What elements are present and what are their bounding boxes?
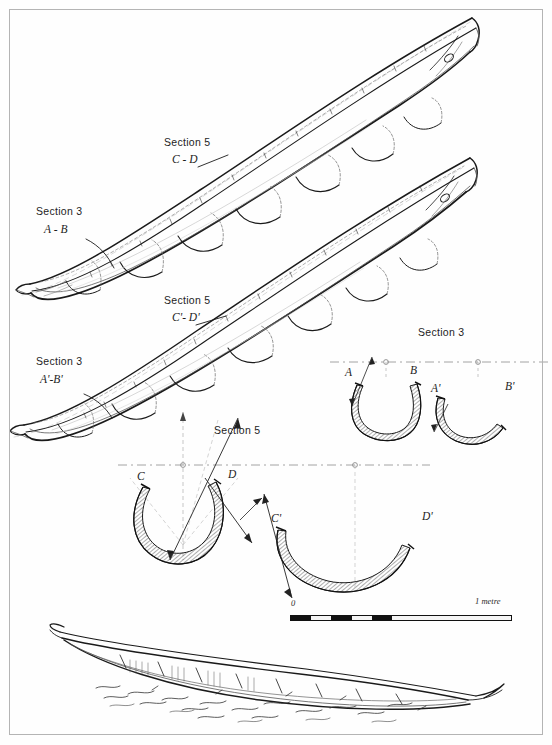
lower-canoe-drawing [10,158,477,440]
lower-canoe-section5-label: Section 5 [164,294,210,306]
bottom-canoe-profile [50,624,504,722]
scale-bar [290,615,512,621]
section3-group-heading: Section 3 [418,326,464,338]
section5-label-D-prime: D' [422,510,433,522]
upper-canoe-drawing [16,18,479,299]
section3-label-A-prime: A' [431,382,440,394]
upper-canoe-section5-points: C - D [172,153,198,165]
scale-segment [372,616,392,620]
scale-end-label: 1 metre [475,596,500,606]
section3-label-B-prime: B' [505,380,514,392]
scale-zero-label: 0 [291,598,295,608]
lower-canoe-section5-points: C'- D' [172,311,200,323]
scale-segment-tail [392,616,511,620]
section5-label-D: D [228,468,236,480]
section5-group-heading: Section 5 [214,424,260,436]
lower-canoe-section3-label: Section 3 [36,355,82,367]
upper-canoe-section3-points: A - B [44,223,67,235]
scale-segment [331,616,351,620]
section5-label-C: C [137,470,145,482]
upper-canoe-section3-label: Section 3 [36,205,82,217]
lower-canoe-section3-points: A'-B' [40,373,63,385]
scale-segment [311,616,331,620]
section3-cross-sections [330,357,548,444]
illustration-plate: Section 5 C - D Section 3 A - B Section … [0,0,552,745]
section3-label-A: A [345,366,352,378]
scale-segment [291,616,311,620]
section3-label-B: B [410,364,417,376]
drawing-layer [0,0,552,745]
section5-label-C-prime: C' [271,512,281,524]
upper-canoe-section5-label: Section 5 [164,136,210,148]
scale-segment [352,616,372,620]
